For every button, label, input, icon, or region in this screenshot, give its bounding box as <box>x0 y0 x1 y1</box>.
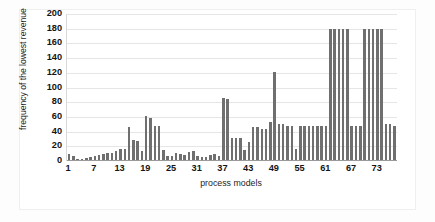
bar <box>389 124 392 161</box>
y-tick-180: 180 <box>47 24 62 33</box>
x-axis-line <box>67 160 397 161</box>
bar <box>119 149 122 160</box>
bar <box>256 127 259 160</box>
bar <box>235 138 238 160</box>
x-tick-7: 7 <box>91 163 96 173</box>
x-axis-tick-labels: 171319253137434955616773 <box>66 163 396 177</box>
y-tick-0: 0 <box>57 156 62 165</box>
bar <box>299 126 302 160</box>
bar-series <box>67 14 397 160</box>
bar <box>124 149 127 160</box>
bar <box>320 126 323 160</box>
bar <box>355 126 358 160</box>
bar <box>192 151 195 160</box>
x-tick-49: 49 <box>269 163 279 173</box>
bar <box>393 126 396 160</box>
plot-area <box>66 14 397 161</box>
bar <box>303 126 306 160</box>
bar <box>325 126 328 160</box>
bar <box>278 124 281 161</box>
x-axis-title: process models <box>66 178 396 188</box>
x-tick-37: 37 <box>217 163 227 173</box>
y-tick-200: 200 <box>47 9 62 18</box>
y-tick-80: 80 <box>52 98 62 107</box>
y-tick-120: 120 <box>47 68 62 77</box>
y-axis-tick-labels: 200180160140120100806040200 <box>24 14 62 161</box>
bar <box>380 29 383 160</box>
bar <box>342 29 345 160</box>
y-tick-40: 40 <box>52 127 62 136</box>
bar <box>158 126 161 160</box>
bar <box>295 149 298 160</box>
x-tick-19: 19 <box>140 163 150 173</box>
bar <box>128 127 131 160</box>
bar <box>149 118 152 160</box>
bar <box>282 124 285 161</box>
bar <box>265 129 268 160</box>
bar <box>363 29 366 160</box>
bar <box>286 126 289 160</box>
x-tick-25: 25 <box>166 163 176 173</box>
bar <box>239 138 242 160</box>
bar <box>243 150 246 160</box>
bar <box>175 153 178 160</box>
x-tick-55: 55 <box>294 163 304 173</box>
bar <box>368 29 371 160</box>
bar <box>273 72 276 160</box>
bar <box>269 122 272 160</box>
bar <box>162 150 165 160</box>
bar <box>136 141 139 160</box>
x-tick-67: 67 <box>346 163 356 173</box>
bar <box>359 126 362 160</box>
bar <box>350 126 353 160</box>
bar <box>188 152 191 160</box>
chart-figure: frequency of the lowest revenue 20018016… <box>0 0 435 222</box>
x-tick-13: 13 <box>114 163 124 173</box>
x-tick-61: 61 <box>320 163 330 173</box>
y-tick-100: 100 <box>47 83 62 92</box>
bar <box>333 29 336 160</box>
x-tick-43: 43 <box>243 163 253 173</box>
bar <box>261 129 264 160</box>
bar <box>291 126 294 160</box>
bar <box>385 124 388 161</box>
bar <box>145 116 148 160</box>
y-tick-140: 140 <box>47 53 62 62</box>
bar <box>222 98 225 160</box>
bar <box>111 153 114 160</box>
bar <box>252 127 255 160</box>
bar <box>372 29 375 160</box>
y-tick-160: 160 <box>47 39 62 48</box>
bar <box>231 138 234 160</box>
x-tick-31: 31 <box>192 163 202 173</box>
bar <box>329 29 332 160</box>
bar <box>132 140 135 160</box>
bar <box>308 126 311 160</box>
bar <box>346 29 349 160</box>
bar <box>226 99 229 160</box>
x-tick-1: 1 <box>66 163 71 173</box>
bar <box>248 142 251 160</box>
x-tick-73: 73 <box>372 163 382 173</box>
bar <box>312 126 315 160</box>
bar <box>316 126 319 160</box>
y-tick-20: 20 <box>52 142 62 151</box>
y-tick-60: 60 <box>52 112 62 121</box>
bar <box>115 151 118 160</box>
bar <box>338 29 341 160</box>
bar <box>141 151 144 160</box>
bar <box>376 29 379 160</box>
bar <box>154 126 157 160</box>
